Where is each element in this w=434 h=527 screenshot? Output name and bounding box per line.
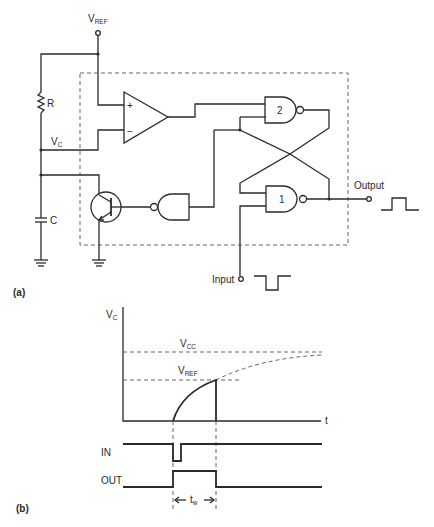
- output-terminal: [367, 197, 372, 202]
- inverter-gate-icon: [158, 194, 189, 220]
- figure-b-label: (b): [16, 503, 29, 514]
- svg-text:−: −: [127, 126, 133, 137]
- resistor-icon: [38, 92, 44, 113]
- input-wire: [240, 206, 266, 276]
- x-axis-label: t: [325, 415, 328, 426]
- input-terminal: [239, 277, 244, 282]
- vcc-label: VCC: [180, 338, 196, 350]
- figure-a-label: (a): [13, 287, 25, 298]
- input-pulse-icon: [254, 276, 291, 290]
- capacitor-label: C: [50, 215, 57, 226]
- vc-waveform: [173, 380, 216, 421]
- gate-to-inverter-wire: [186, 130, 214, 207]
- vc-label: VC: [51, 136, 63, 148]
- vref-level-label: VREF: [178, 365, 198, 377]
- y-axis-label: VC: [106, 309, 118, 321]
- ground-icon: [34, 260, 48, 266]
- svg-text:2: 2: [277, 105, 283, 116]
- vc-axes: [123, 307, 321, 421]
- input-label: Input: [212, 274, 234, 285]
- output-pulse-icon: [381, 198, 419, 210]
- vref-label: VREF: [88, 13, 108, 25]
- vc-to-transistor-wire: [41, 175, 99, 195]
- out-label: OUT: [101, 475, 122, 486]
- cross-wire-a: [240, 130, 290, 193]
- in-waveform: [123, 444, 322, 461]
- out-waveform: [123, 471, 322, 487]
- gate2-out-wire: [290, 110, 329, 154]
- output-label: Output: [354, 180, 384, 191]
- ground-icon: [92, 260, 106, 266]
- monostable-circuit-figure: VREF R VC C + −: [0, 0, 434, 527]
- resistor-label: R: [47, 98, 54, 109]
- svg-text:+: +: [127, 100, 133, 111]
- vref-wire: [98, 35, 124, 105]
- svg-text:1: 1: [279, 194, 285, 205]
- vref-terminal: [96, 31, 101, 36]
- svg-text:tw: tw: [190, 494, 198, 506]
- charge-extrapolation: [216, 355, 322, 380]
- comparator-out-wire: [168, 104, 266, 117]
- pulse-width-annotation: tw: [175, 494, 214, 506]
- timing-diagram: VC t VCC VREF IN OUT tw (b): [16, 307, 328, 514]
- circuit-diagram: VREF R VC C + −: [13, 13, 419, 298]
- in-label: IN: [101, 447, 111, 458]
